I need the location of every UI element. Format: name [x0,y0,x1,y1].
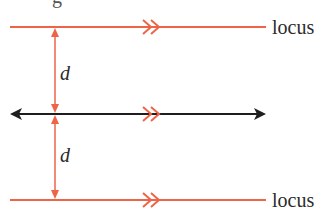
bottom-distance-label: d [60,145,70,165]
bottom-locus-line [10,193,266,207]
down-arrowhead-icon [51,190,59,199]
given-line [10,107,266,121]
bottom-distance-arrow [51,115,59,199]
top-distance-label: d [60,63,70,83]
down-arrowhead-icon [51,104,59,113]
top-distance-arrow [51,28,59,113]
locus-parallel-lines-diagram: g locus d d locus [0,0,329,220]
top-locus-line [10,20,266,34]
top-locus-label: locus [272,17,314,37]
up-arrowhead-icon [51,28,59,37]
cut-off-heading-fragment: g [52,0,62,6]
up-arrowhead-icon [51,115,59,124]
bottom-locus-label: locus [272,190,314,210]
